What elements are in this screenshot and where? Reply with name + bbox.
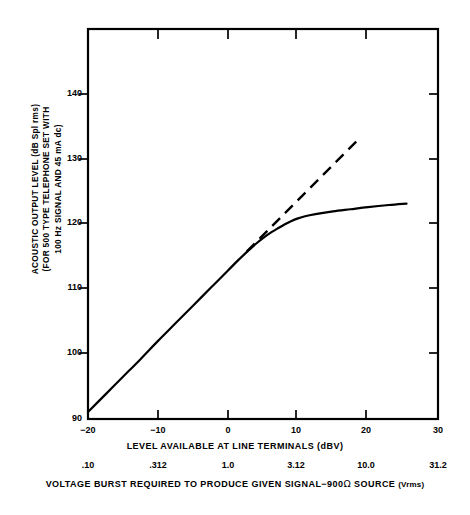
x2-tick-label: 1.0	[222, 460, 235, 470]
y-tick-label: 100	[67, 348, 82, 357]
x-tick-label: −20	[80, 425, 95, 435]
y-tick-label: 140	[67, 89, 82, 98]
y-axis-right-ticks	[429, 94, 438, 353]
x-axis-title: LEVEL AVAILABLE AT LINE TERMINALS (dBV)	[0, 441, 470, 451]
ohm-symbol: Ω	[343, 478, 351, 489]
x2-tick-label: .10	[82, 460, 95, 470]
series-measured-acoustic-output	[88, 204, 407, 412]
x-tick-label: 30	[433, 425, 443, 435]
x-axis-tick-labels: −20 −10 0 10 20 30	[0, 425, 470, 439]
y-tick-label: 90	[72, 414, 82, 423]
x2-tick-label: 3.12	[287, 460, 305, 470]
x-tick-label: 20	[361, 425, 371, 435]
secondary-axis-title-part2: SOURCE	[351, 479, 398, 489]
x-axis-ticks	[158, 410, 366, 419]
secondary-axis-title: VOLTAGE BURST REQUIRED TO PRODUCE GIVEN …	[0, 478, 470, 489]
secondary-axis-title-part1: VOLTAGE BURST REQUIRED TO PRODUCE GIVEN …	[46, 479, 344, 489]
x2-tick-label: 10.0	[357, 460, 375, 470]
x2-tick-label: 31.2	[429, 460, 447, 470]
y-axis-title-line-1: ACOUSTIC OUTPUT LEVEL (dB Spl rms)	[30, 104, 42, 274]
y-tick-label: 120	[67, 218, 82, 227]
x-tick-label: 0	[225, 425, 230, 435]
x2-tick-label: .312	[149, 460, 167, 470]
y-tick-label: 130	[67, 154, 82, 163]
secondary-axis-units: (Vrms)	[398, 480, 424, 489]
chart-figure: ACOUSTIC OUTPUT LEVEL (dB Spl rms) (FOR …	[0, 0, 470, 515]
series-ideal-linear-extension	[247, 140, 358, 251]
y-tick-label: 110	[67, 283, 82, 292]
x-tick-label: −10	[150, 425, 165, 435]
x-axis-top-ticks	[158, 29, 366, 39]
x-tick-label: 10	[291, 425, 301, 435]
secondary-axis-tick-labels: .10 .312 1.0 3.12 10.0 31.2	[0, 460, 470, 474]
